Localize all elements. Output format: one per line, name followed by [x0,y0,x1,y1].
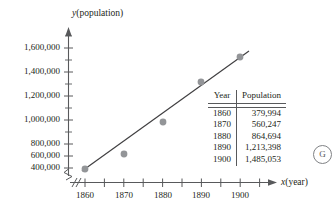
cell-population: 1,213,398 [237,142,287,154]
x-axis-arrow-icon [268,179,277,185]
data-point-1880 [160,119,167,126]
x-tick-label-1870: 1870 [104,190,144,200]
y-tick-label-800000: 800,000 [0,138,60,148]
cell-year: 1870 [208,119,237,131]
table-header-year: Year [208,90,237,103]
figure-container: y(population) x(year) 1,600,000 1,400,00… [0,0,336,217]
cell-year: 1890 [208,142,237,154]
y-tick-label-400000: 400,000 [0,162,60,172]
table-row: 1860 379,994 [208,107,286,119]
cell-year: 1880 [208,131,237,143]
cell-population: 560,247 [237,119,287,131]
cell-population: 1,485,053 [237,154,287,166]
table-row: 1900 1,485,053 [208,154,286,166]
x-axis-title: x(year) [281,177,308,187]
data-point-1900 [237,54,244,61]
y-tick-label-600000: 600,000 [0,150,60,160]
table-row: 1890 1,213,398 [208,142,286,154]
table-row: 1880 864,694 [208,131,286,143]
y-axis-arrow-icon [65,27,71,36]
y-axis-title: y(population) [72,8,123,18]
data-point-1890 [198,79,205,86]
x-axis-unit: (year) [285,177,308,187]
cell-year: 1860 [208,107,237,119]
y-tick-label-1600000: 1,600,000 [0,42,60,52]
data-point-1860 [82,166,89,173]
data-table-container: Year Population 1860 379,994 1870 560,24… [208,90,286,166]
cell-population: 379,994 [237,107,287,119]
x-tick-label-1880: 1880 [143,190,183,200]
data-point-1870 [121,151,128,158]
x-tick-label-1860: 1860 [65,190,105,200]
cell-population: 864,694 [237,131,287,143]
cell-year: 1900 [208,154,237,166]
y-tick-label-1400000: 1,400,000 [0,66,60,76]
corner-marker-g: G [313,145,332,164]
table-header-population: Population [237,90,287,103]
x-tick-label-1890: 1890 [181,190,221,200]
table-header-row: Year Population [208,90,286,103]
y-tick-label-1200000: 1,200,000 [0,90,60,100]
population-data-table: Year Population 1860 379,994 1870 560,24… [208,90,286,166]
y-tick-label-1000000: 1,000,000 [0,114,60,124]
x-tick-label-1900: 1900 [220,190,260,200]
table-row: 1870 560,247 [208,119,286,131]
y-axis-unit: (population) [76,8,123,18]
